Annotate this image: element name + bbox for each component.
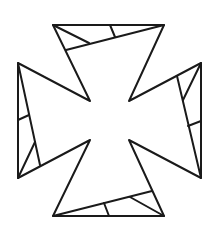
- maltese-cross-diagram: [0, 0, 224, 234]
- top-tick-line: [110, 25, 115, 37]
- dissection-lines: [18, 25, 201, 216]
- right-inner-line: [177, 76, 201, 178]
- cross-outline: [18, 25, 201, 216]
- right-tick-line: [188, 121, 201, 126]
- bottom-inner-line: [53, 191, 152, 216]
- bottom-tick-line: [104, 203, 109, 216]
- left-tick-line: [18, 115, 29, 120]
- diagram-canvas: [0, 0, 224, 234]
